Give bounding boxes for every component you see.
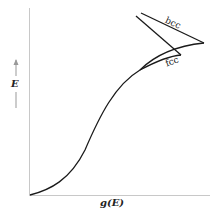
diagram-canvas bbox=[0, 0, 219, 217]
y-axis-label: E bbox=[11, 78, 19, 89]
x-axis-label: g(E) bbox=[100, 197, 124, 208]
fcc-curve bbox=[30, 55, 181, 195]
up-arrow-icon bbox=[14, 59, 19, 65]
